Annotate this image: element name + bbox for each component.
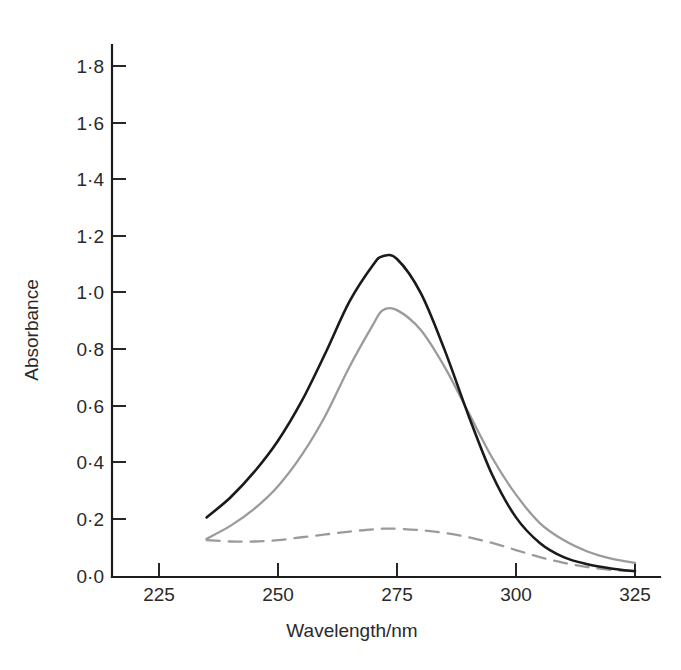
y-tick-label-0-4: 0·4 bbox=[77, 452, 105, 473]
y-axis-ticks bbox=[112, 66, 126, 519]
y-tick-label-1-4: 1·4 bbox=[77, 169, 105, 190]
x-tick-label-275: 275 bbox=[381, 584, 413, 605]
y-axis-title: Absorbance bbox=[21, 279, 42, 380]
series-dashed-gray-spectrum bbox=[207, 529, 635, 572]
y-tick-label-1-6: 1·6 bbox=[77, 113, 104, 134]
y-tick-label-0-2: 0·2 bbox=[77, 509, 104, 530]
x-axis-title: Wavelength/nm bbox=[286, 620, 417, 641]
x-tick-label-325: 325 bbox=[619, 584, 651, 605]
x-axis-ticks bbox=[159, 563, 635, 577]
absorbance-spectrum-chart: 1·8 1·6 1·4 1·2 1·0 0·8 0·6 0·4 0·2 0·0 … bbox=[0, 0, 681, 670]
x-tick-label-250: 250 bbox=[262, 584, 294, 605]
x-tick-label-225: 225 bbox=[143, 584, 175, 605]
y-tick-label-1-8: 1·8 bbox=[77, 56, 104, 77]
series-solid-gray-spectrum bbox=[207, 308, 635, 563]
y-axis: 1·8 1·6 1·4 1·2 1·0 0·8 0·6 0·4 0·2 0·0 … bbox=[21, 45, 126, 587]
y-tick-label-1-0: 1·0 bbox=[77, 282, 104, 303]
x-axis-tick-labels: 225 250 275 300 325 bbox=[143, 584, 651, 605]
y-tick-label-0-0: 0·0 bbox=[77, 566, 104, 587]
y-tick-label-0-8: 0·8 bbox=[77, 339, 104, 360]
series-group bbox=[207, 255, 635, 571]
y-axis-tick-labels: 1·8 1·6 1·4 1·2 1·0 0·8 0·6 0·4 0·2 0·0 bbox=[77, 56, 105, 587]
series-solid-dark-spectrum bbox=[207, 255, 635, 571]
chart-figure: 1·8 1·6 1·4 1·2 1·0 0·8 0·6 0·4 0·2 0·0 … bbox=[0, 0, 681, 670]
y-tick-label-1-2: 1·2 bbox=[77, 226, 104, 247]
x-tick-label-300: 300 bbox=[500, 584, 532, 605]
y-tick-label-0-6: 0·6 bbox=[77, 396, 104, 417]
x-axis: 225 250 275 300 325 Wavelength/nm bbox=[112, 563, 660, 641]
